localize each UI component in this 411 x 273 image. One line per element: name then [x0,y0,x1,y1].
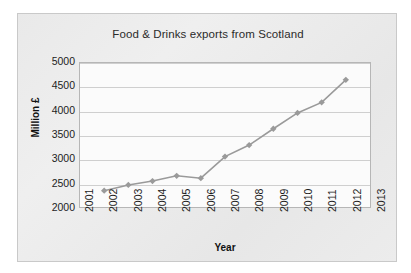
data-point-marker [125,182,131,188]
plot-area [79,62,371,208]
data-point-marker [173,173,179,179]
y-axis-tick-label: 2500 [33,177,75,189]
x-axis-tick-label: 2005 [180,189,192,212]
y-axis-tick-label: 3500 [33,128,75,140]
y-axis-tick-label: 4500 [33,79,75,91]
y-axis-tick-label: 2000 [33,201,75,213]
y-axis-tick-label: 4000 [33,104,75,116]
x-axis-tick-label: 2001 [83,189,95,212]
x-axis-tick-label: 2003 [132,189,144,212]
x-axis-tick-label: 2008 [253,189,265,212]
data-series-line [80,63,370,207]
x-axis-tick-label: 2006 [205,189,217,212]
chart-title: Food & Drinks exports from Scotland [18,28,398,40]
x-axis-tick-label: 2004 [156,189,168,212]
x-axis-tick-label: 2012 [351,189,363,212]
x-axis-tick-label: 2009 [278,189,290,212]
chart-container: Food & Drinks exports from Scotland Mill… [17,13,397,262]
x-axis-tick-label: 2002 [107,189,119,212]
x-axis-tick-label: 2010 [302,189,314,212]
x-axis-tick-label: 2007 [229,189,241,212]
x-axis-tick-label: 2011 [326,189,338,212]
x-axis-tick-label: 2013 [375,189,387,212]
x-axis-title: Year [79,242,371,253]
y-axis-tick-label: 5000 [33,55,75,67]
y-axis-tick-labels: 5000450040003500300025002000 [31,62,75,208]
chart-screenshot: Food & Drinks exports from Scotland Mill… [0,0,411,273]
data-point-marker [149,178,155,184]
y-axis-tick-label: 3000 [33,152,75,164]
